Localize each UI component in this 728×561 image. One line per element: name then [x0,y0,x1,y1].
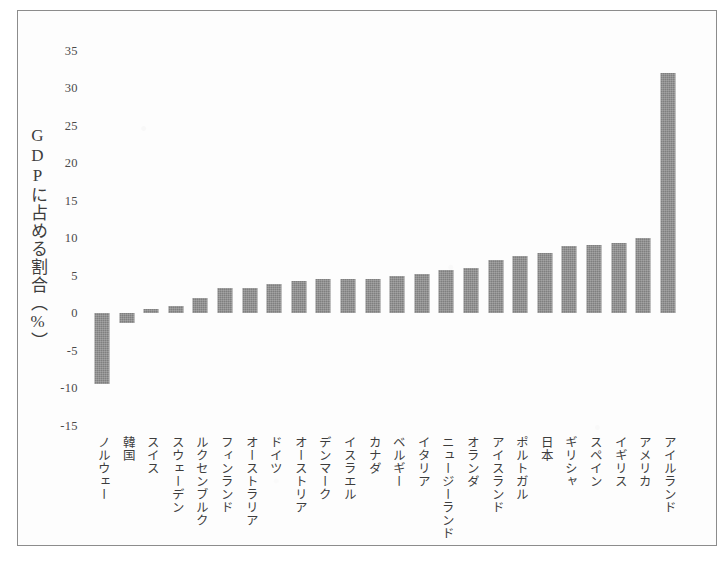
x-tick-label: スウェーデン [168,436,183,514]
x-tick-label: アイルランド [660,436,675,514]
bar [636,238,651,313]
bar [365,279,380,314]
bar-group: ポルトガル [509,0,531,536]
bar-group: デンマーク [312,0,334,536]
bar-group: スウェーデン [165,0,187,536]
bar [439,270,454,313]
bar-group: ドイツ [263,0,285,536]
bar [144,309,159,313]
bar [95,313,110,384]
bar [267,284,282,313]
bar-group: オーストラリア [239,0,261,536]
bar-group: ギリシャ [558,0,580,536]
x-tick-label: スペイン [587,436,602,488]
bar-group: オランダ [460,0,482,536]
bar-group: カナダ [362,0,384,536]
bar [242,288,257,313]
x-tick-label: ベルギー [390,436,405,488]
bar-group: 韓国 [116,0,138,536]
bar-group: ベルギー [386,0,408,536]
bar-group: イスラエル [337,0,359,536]
bar [168,306,183,313]
bar [414,274,429,313]
bar [390,276,405,314]
x-tick-label: オーストラリア [242,436,257,527]
bar [513,256,528,313]
bar-group: イギリス [608,0,630,536]
x-tick-label: カナダ [365,436,380,475]
bar-group: アメリカ [632,0,654,536]
x-tick-label: 韓国 [119,436,134,462]
x-tick-label: ニュージーランド [439,436,454,540]
x-tick-label: 日本 [537,436,552,462]
x-tick-label: デンマーク [316,436,331,501]
bar-group: オーストリア [288,0,310,536]
x-tick-label: フィンランド [218,436,233,514]
bar [611,243,626,314]
bar [488,260,503,313]
bar-group: 日本 [534,0,556,536]
bar-group: ノルウェー [91,0,113,536]
x-tick-label: オーストリア [291,436,306,514]
bar [537,253,552,313]
bar-group: ニュージーランド [435,0,457,536]
bar-group: スイス [140,0,162,536]
x-tick-label: イタリア [414,436,429,488]
x-tick-label: アメリカ [636,436,651,488]
plot-area: ノルウェー韓国スイススウェーデンルクセンブルクフィンランドオーストラリアドイツオ… [72,0,724,536]
bar [660,73,675,313]
bar [316,279,331,313]
bar-group: フィンランド [214,0,236,536]
bar-group: スペイン [583,0,605,536]
bar [218,288,233,313]
x-tick-label: ドイツ [267,436,282,475]
x-tick-label: オランダ [464,436,479,488]
bar-group: アイスランド [485,0,507,536]
x-tick-label: ルクセンブルク [193,436,208,527]
bar [341,279,356,313]
bar [193,298,208,313]
bar [562,246,577,313]
x-tick-label: スイス [144,436,159,475]
bar [464,268,479,313]
bar-group: ルクセンブルク [189,0,211,536]
x-tick-label: ギリシャ [562,436,577,488]
bar-group: イタリア [411,0,433,536]
bar-series: ノルウェー韓国スイススウェーデンルクセンブルクフィンランドオーストラリアドイツオ… [72,0,724,536]
x-tick-label: イギリス [611,436,626,488]
x-tick-label: ポルトガル [513,436,528,501]
x-tick-label: アイスランド [488,436,503,514]
bar [291,281,306,313]
bar [587,245,602,313]
x-tick-label: ノルウェー [95,436,110,501]
bar-group: アイルランド [657,0,679,536]
bar [119,313,134,323]
x-tick-label: イスラエル [341,436,356,501]
